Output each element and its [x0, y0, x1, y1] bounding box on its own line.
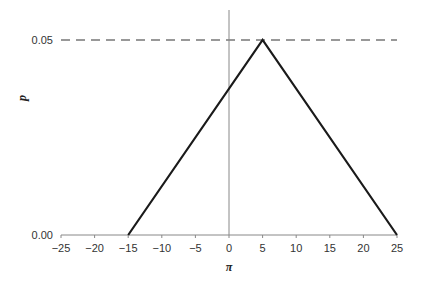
svg-text:10: 10: [290, 242, 302, 254]
y-tick-0.00: 0.00: [32, 229, 53, 241]
svg-text:5: 5: [260, 242, 266, 254]
x-axis-title: π: [226, 260, 233, 274]
svg-text:−10: −10: [152, 242, 171, 254]
svg-text:20: 20: [357, 242, 369, 254]
y-tick-0.05: 0.05: [32, 34, 53, 46]
svg-text:−15: −15: [119, 242, 138, 254]
x-tick-labels: −25 −20 −15 −10 −5 0 5 10 15 20 25: [52, 242, 403, 254]
y-axis-title: p: [15, 95, 29, 102]
svg-text:15: 15: [324, 242, 336, 254]
svg-text:0: 0: [226, 242, 232, 254]
svg-text:−5: −5: [189, 242, 202, 254]
chart: 0.05 0.00 −25 −20 −15 −10 −5 0 5 10 15 2…: [0, 0, 423, 287]
svg-text:−25: −25: [52, 242, 71, 254]
svg-text:25: 25: [391, 242, 403, 254]
svg-text:−20: −20: [85, 242, 104, 254]
series-p-of-pi: [128, 40, 397, 235]
